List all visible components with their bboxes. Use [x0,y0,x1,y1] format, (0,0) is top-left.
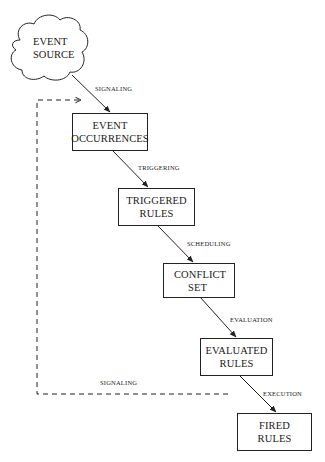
event-source-line1: EVENT [33,35,74,48]
node-triggered-rules: TRIGGERED RULES [118,188,195,226]
event-source-line2: SOURCE [33,48,74,61]
node-label-line2: RULES [258,432,292,445]
node-label-line2: RULES [140,207,174,220]
node-label-line2: RULES [220,357,254,370]
node-label-line1: FIRED [259,419,290,432]
node-label-line2: OCCURRENCES [71,132,149,145]
node-fired-rules: FIRED RULES [237,413,312,451]
node-conflict-set: CONFLICT SET [163,263,235,298]
edge-label-evaluation: EVALUATION [230,316,273,323]
edge-signaling-line [72,75,110,112]
node-evaluated-rules: EVALUATED RULES [200,338,273,376]
node-label-line1: CONFLICT [174,268,226,281]
edge-label-feedback-signaling: SIGNALING [100,379,137,386]
node-event-occurrences: EVENT OCCURRENCES [72,113,148,151]
node-label-line1: EVALUATED [206,344,268,357]
event-source-label: EVENT SOURCE [33,35,74,61]
edge-label-scheduling: SCHEDULING [187,240,231,247]
edge-label-execution: EXECUTION [263,390,302,397]
edge-label-signaling: SIGNALING [95,85,132,92]
node-label-line2: SET [174,281,207,294]
edge-label-triggering: TRIGGERING [138,164,180,171]
node-label-line1: TRIGGERED [126,194,186,207]
node-label-line1: EVENT [93,119,128,132]
